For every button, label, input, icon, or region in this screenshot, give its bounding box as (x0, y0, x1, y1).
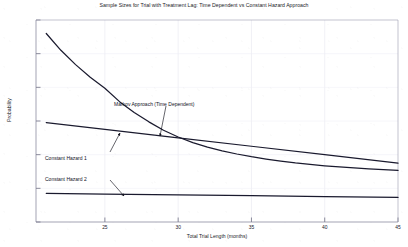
series-line (46, 33, 398, 170)
plot-area: 020004000600080001000012000 2530354045 M… (36, 20, 398, 222)
chart-annotation: Constant Hazard 1 (45, 155, 87, 161)
chart-title: Sample Sizes for Trial with Treatment La… (0, 2, 408, 8)
x-axis-label: Total Trial Length (months) (36, 233, 398, 239)
plot-canvas (36, 20, 398, 222)
annotation-leader-line (110, 133, 120, 152)
x-tick-label: 40 (305, 225, 345, 230)
x-tick-label: 25 (85, 225, 125, 230)
series-line (46, 193, 398, 197)
chart-figure: Sample Sizes for Trial with Treatment La… (0, 0, 408, 247)
series-line (46, 123, 398, 163)
x-tick-label: 30 (158, 225, 198, 230)
chart-annotation: Constant Hazard 2 (45, 176, 87, 182)
x-tick-label: 35 (231, 225, 271, 230)
y-axis-label: Probability (6, 60, 12, 160)
annotation-leaders (110, 106, 166, 196)
gridlines (36, 20, 398, 222)
x-tick-label: 45 (378, 225, 408, 230)
data-series-group (46, 33, 398, 197)
chart-annotation: Markov Approach (Time Dependent) (114, 101, 194, 107)
